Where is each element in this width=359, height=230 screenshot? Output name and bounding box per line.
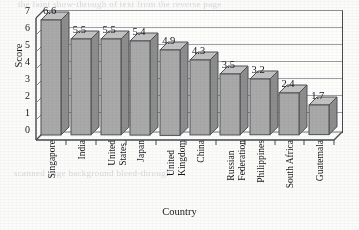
page-bleed-top: the faint show-through of text from the … (18, 0, 348, 9)
y-tick-3: 3 (14, 73, 30, 84)
bar-singapore (41, 22, 61, 137)
y-tick-2: 2 (14, 90, 30, 101)
bar-china (190, 62, 210, 137)
y-tick-6: 6 (14, 22, 30, 33)
y-tick-0: 0 (14, 124, 30, 135)
value-label-south-africa: 2.4 (281, 78, 294, 89)
bar-russian-federation (220, 76, 240, 137)
value-label-japan: 5.4 (132, 26, 145, 37)
value-label-india: 5.5 (73, 24, 86, 35)
y-tick-5: 5 (14, 39, 30, 50)
y-tick-1: 1 (14, 107, 30, 118)
value-label-united-states: 5.5 (103, 24, 116, 35)
bar-united-kingdom (160, 52, 180, 137)
x-axis-title: Country (0, 206, 359, 217)
category-label-guatemala: Guatemala (315, 140, 326, 181)
category-label-singapore: Singapore (47, 140, 58, 179)
category-label-india: India (77, 140, 88, 160)
y-tick-4: 4 (14, 56, 30, 67)
bar-chart: the faint show-through of text from the … (0, 0, 359, 230)
bar-south-africa (279, 95, 299, 137)
category-label-russian-federation: RussianFederation (226, 140, 247, 181)
category-label-south-africa: South Africa (285, 140, 296, 188)
bar-japan (130, 43, 150, 137)
category-label-china: China (196, 140, 207, 163)
category-label-japan: Japan (136, 140, 147, 162)
bar-united-states (101, 41, 121, 137)
value-label-china: 4.3 (192, 45, 205, 56)
category-label-philippines: Philippines (256, 140, 267, 183)
bar-india (71, 41, 91, 137)
bar-guatemala (309, 107, 329, 137)
bar-philippines (250, 81, 270, 137)
value-label-russian-federation: 3.5 (222, 59, 235, 70)
value-label-singapore: 6.6 (43, 5, 56, 16)
category-label-united-kingdom: UnitedKingdom (166, 140, 187, 176)
value-label-guatemala: 1.7 (311, 90, 324, 101)
category-label-united-states: UnitedStates (107, 140, 128, 166)
y-tick-7: 7 (14, 5, 30, 16)
x-axis-category-labels: SingaporeIndiaUnitedStatesJapanUnitedKin… (36, 140, 342, 206)
value-label-philippines: 3.2 (252, 64, 265, 75)
value-label-united-kingdom: 4.9 (162, 35, 175, 46)
